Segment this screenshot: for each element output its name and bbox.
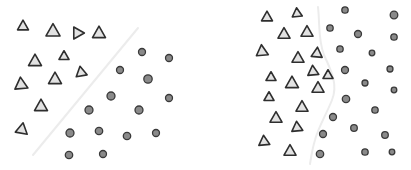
triangle-point — [301, 26, 313, 37]
triangle-point — [15, 122, 29, 134]
triangle-point — [35, 99, 48, 110]
triangle-point — [46, 24, 60, 36]
circle-point — [355, 31, 362, 38]
circle-point — [390, 11, 398, 19]
circle-point — [320, 131, 327, 138]
circle-point — [100, 151, 107, 158]
circle-point — [85, 106, 93, 114]
circle-point — [166, 95, 173, 102]
circle-point — [382, 132, 389, 139]
circle-point — [65, 151, 72, 158]
circle-point — [372, 107, 378, 113]
circle-point — [342, 67, 349, 74]
panel-nonlinear-boundary — [255, 7, 397, 164]
triangle-point — [312, 82, 324, 93]
circle-point — [95, 127, 102, 134]
triangle-point — [286, 76, 299, 87]
circle-point — [123, 132, 130, 139]
circle-point — [139, 49, 146, 56]
circle-point — [387, 66, 393, 72]
circle-point — [107, 92, 115, 100]
circle-point — [342, 95, 349, 102]
circle-point — [330, 114, 337, 121]
triangle-point — [14, 77, 28, 90]
scatter-diagram — [0, 0, 411, 170]
triangle-point — [266, 72, 276, 81]
panel-linear-boundary — [14, 20, 173, 159]
circle-point — [117, 67, 124, 74]
circle-point — [153, 130, 160, 137]
triangle-point — [284, 145, 296, 156]
circle-point — [351, 125, 358, 132]
triangle-point — [264, 92, 274, 101]
circle-point — [391, 34, 397, 40]
circle-point — [391, 87, 397, 93]
circle-point — [327, 25, 333, 31]
circle-point — [369, 50, 375, 56]
triangle-point — [292, 52, 304, 63]
circle-point — [316, 150, 323, 157]
triangle-point — [59, 51, 69, 60]
triangle-point — [292, 7, 303, 17]
triangle-point — [262, 11, 273, 21]
circle-point — [144, 75, 152, 83]
circle-point — [66, 129, 74, 137]
triangle-point — [29, 54, 42, 65]
triangle-point — [75, 65, 88, 76]
triangle-point — [255, 44, 268, 56]
triangle-point — [49, 72, 62, 83]
triangle-point — [74, 27, 85, 39]
circle-point — [337, 46, 343, 52]
triangle-point — [278, 28, 290, 39]
circle-point — [362, 149, 368, 155]
circle-point — [166, 55, 173, 62]
triangle-point — [296, 101, 308, 112]
circle-point — [135, 106, 143, 114]
triangle-point — [270, 112, 282, 123]
triangle-point — [307, 65, 319, 76]
decision-boundary — [33, 28, 138, 155]
triangle-point — [291, 121, 303, 132]
triangle-point — [18, 20, 29, 30]
triangle-point — [93, 26, 106, 37]
circle-point — [362, 80, 368, 86]
circle-point — [342, 7, 348, 13]
figure-canvas — [0, 0, 411, 170]
triangle-point — [258, 135, 270, 146]
circle-point — [389, 149, 395, 155]
